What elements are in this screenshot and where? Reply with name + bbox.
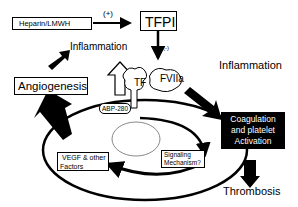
coagulation-label-1: Coagulation [221, 114, 285, 125]
heparin-box: Heparin/LMWH [12, 17, 92, 30]
coagulation-box: Coagulation and platelet Activation [221, 112, 285, 149]
abp-box: ABP-280 [99, 103, 131, 114]
coagulation-arrow [184, 87, 222, 120]
vegf-label-1: VEGF & other [62, 154, 106, 161]
minus-sign: (-) [163, 45, 169, 51]
coagulation-label-2: and platelet [221, 125, 285, 136]
plus-sign: (+) [103, 10, 113, 18]
vegf-label-2: Factors [60, 163, 83, 170]
angiogenesis-box: Angiogenesis [14, 77, 88, 95]
tfpi-box: TFPI [140, 11, 177, 31]
vegf-box: VEGF & other Factors [57, 152, 109, 171]
angiogenesis-arrow [34, 90, 72, 140]
signaling-box: Signaling Mechanism? [161, 150, 205, 168]
nucleus [112, 122, 160, 156]
signaling-label-1: Signaling [164, 152, 191, 159]
tfpi-label: TFPI [145, 15, 175, 29]
tf-label: TF [134, 78, 146, 88]
angiogenesis-label: Angiogenesis [18, 81, 87, 93]
coagulation-label-3: Activation [221, 136, 285, 147]
inflammation-left: Inflammation [70, 42, 127, 52]
heparin-label: Heparin/LMWH [19, 20, 70, 28]
abp-label: ABP-280 [102, 106, 128, 113]
fviia-label: FVIIa [160, 74, 184, 84]
inflammation-right: Inflammation [219, 60, 282, 71]
thrombosis-label: Thrombosis [223, 186, 280, 197]
signaling-label-2: Mechanism? [164, 160, 201, 167]
diagram-canvas [0, 0, 298, 207]
inflammation-left-arrow [48, 50, 70, 70]
